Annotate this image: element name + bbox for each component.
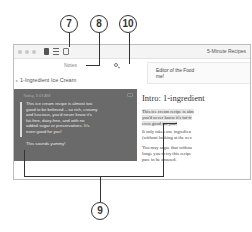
chapter-title: 1-Ingredient Ice Cream bbox=[20, 77, 76, 83]
close-window-button[interactable] bbox=[18, 50, 22, 54]
paragraph: It only takes one ingredien (without loo… bbox=[142, 129, 251, 141]
callout-10: 10 bbox=[119, 15, 137, 33]
table-of-contents-icon[interactable] bbox=[53, 48, 59, 55]
chapter-heading: Intro: 1-ingredient bbox=[142, 93, 251, 103]
book-page: Editor of the Food me! Intro: 1-ingredie… bbox=[137, 59, 251, 180]
note-date: Today, 3:03 AM bbox=[23, 93, 50, 98]
callout-9-leader bbox=[100, 189, 101, 202]
book-title: 5-Minute Recipes bbox=[207, 48, 246, 54]
callout-9: 9 bbox=[91, 202, 109, 220]
paragraph: You may argue that withou longe you to t… bbox=[142, 145, 251, 162]
callout-9-leader bbox=[100, 176, 101, 190]
callout-9-leader bbox=[24, 176, 164, 177]
book-reader-window: 5-Minute Recipes Notes ▸1-Ingredient Ice… bbox=[13, 44, 251, 180]
text-line: (without looking at the nex bbox=[142, 135, 251, 141]
callout-7: 7 bbox=[60, 15, 78, 33]
callout-10-leader bbox=[129, 33, 130, 64]
note-popover: Editor of the Food me! bbox=[147, 62, 251, 84]
notes-header-label: Notes bbox=[64, 62, 77, 68]
search-icon[interactable] bbox=[114, 63, 118, 67]
chapter-row[interactable]: ▸1-Ingredient Ice Cream bbox=[16, 77, 76, 83]
note-comment: This sounds yummy! bbox=[26, 141, 65, 146]
notes-sidebar: Notes ▸1-Ingredient Ice Cream Today, 3:0… bbox=[14, 59, 137, 180]
note-card[interactable]: Today, 3:03 AM This ice cream recipe is … bbox=[14, 89, 137, 161]
text-line: you'd never know it's fat-fr bbox=[142, 115, 192, 120]
minimize-window-button[interactable] bbox=[25, 50, 29, 54]
callout-9-leader bbox=[24, 150, 25, 176]
highlighted-paragraph[interactable]: This ice cream recipe is alm you'd never… bbox=[142, 109, 251, 126]
callout-8-leader bbox=[86, 65, 100, 66]
text-line: This ice cream recipe is alm bbox=[142, 109, 194, 114]
library-icon[interactable] bbox=[44, 48, 49, 55]
callout-7-leader bbox=[69, 33, 70, 47]
chevron-right-icon: ▸ bbox=[16, 78, 18, 83]
popover-line: me! bbox=[156, 74, 251, 80]
note-options-icon[interactable] bbox=[127, 93, 133, 97]
callout-9-leader bbox=[163, 123, 177, 124]
title-bar: 5-Minute Recipes bbox=[14, 45, 250, 59]
quote-line: even good for you! bbox=[26, 129, 124, 135]
note-quote: This ice cream recipe is almost too good… bbox=[26, 101, 124, 135]
callout-9-leader bbox=[163, 123, 164, 177]
callout-8: 8 bbox=[90, 15, 108, 33]
highlight-bar bbox=[20, 102, 22, 137]
zoom-window-button[interactable] bbox=[32, 50, 36, 54]
notes-icon[interactable] bbox=[63, 48, 69, 55]
text-line: pare to be amazed. bbox=[142, 157, 251, 163]
callout-8-leader bbox=[99, 33, 100, 66]
